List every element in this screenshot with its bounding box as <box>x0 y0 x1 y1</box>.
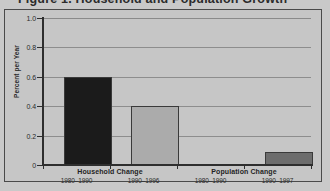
group-label-population: Population Change <box>177 168 311 175</box>
period-label-household-2: 1990–1996 <box>110 177 177 184</box>
period-label-household-1: 1980–1990 <box>43 177 110 184</box>
period-label-population-2: 1990–1997 <box>244 177 311 184</box>
page-title: Figure 1. Household and Population Growt… <box>18 0 287 6</box>
x-axis-labels: Household Change Population Change 1980–… <box>5 10 323 183</box>
chart-title-strip: Figure 1. Household and Population Growt… <box>0 0 330 9</box>
group-label-household: Household Change <box>43 168 177 175</box>
chart-frame: 1.0 0.8 0.6 0.4 0.2 0 Percent per Year H… <box>4 9 322 182</box>
period-label-population-1: 1980–1990 <box>177 177 244 184</box>
